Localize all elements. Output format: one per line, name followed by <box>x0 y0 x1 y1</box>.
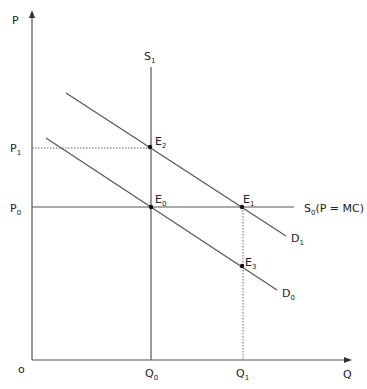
point-e0 <box>149 205 153 209</box>
q0-label: Q0 <box>145 367 158 382</box>
e3-label: E3 <box>245 256 256 271</box>
p1-label: P1 <box>10 142 21 157</box>
point-e3 <box>240 264 244 268</box>
y-axis-label: P <box>12 14 19 27</box>
q1-label: Q1 <box>236 367 249 382</box>
x-axis-label: Q <box>343 368 352 381</box>
point-e2 <box>148 145 152 149</box>
e0-label: E0 <box>155 193 166 208</box>
d0-label: D0 <box>282 287 295 302</box>
p0-label: P0 <box>10 202 21 217</box>
s1-label: S1 <box>144 50 155 65</box>
s0-label: S0(P = MC) <box>304 202 364 217</box>
d1-label: D1 <box>291 232 304 247</box>
e1-label: E1 <box>243 193 254 208</box>
supply-demand-diagram: P Q o P1 P0 Q0 Q1 S1 S0(P = MC) D1 D0 E2… <box>0 0 367 389</box>
d1-curve <box>66 93 286 236</box>
e2-label: E2 <box>155 135 166 150</box>
axes <box>29 10 352 363</box>
y-axis-arrow-icon <box>29 10 35 18</box>
x-axis-arrow-icon <box>344 357 352 363</box>
origin-label: o <box>18 363 25 376</box>
